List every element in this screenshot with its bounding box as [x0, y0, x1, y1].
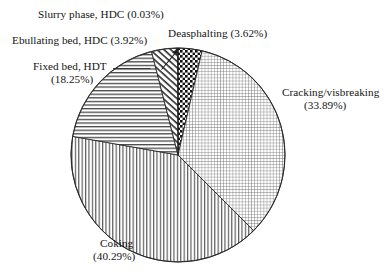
- slice-label-value: (40.29%): [93, 250, 135, 263]
- slice-label-value: (33.89%): [304, 99, 379, 112]
- slice-label-value: (18.25%): [51, 73, 107, 86]
- slice-label-deasphalting: Deasphalting (3.62%): [168, 27, 267, 40]
- slice-label-coking: Coking (40.29%): [93, 237, 135, 264]
- slice-label-text: Ebullating bed, HDC (3.92%): [12, 34, 147, 46]
- slice-label-slurry-phase-hdc: Slurry phase, HDC (0.03%): [38, 8, 164, 21]
- slice-label-cracking-visbreaking: Cracking/visbreaking (33.89%): [282, 86, 379, 113]
- slice-label-text: Fixed bed, HDT: [33, 60, 107, 72]
- slice-label-fixed-bed-hdt: Fixed bed, HDT (18.25%): [33, 60, 107, 87]
- slice-label-text: Coking: [100, 237, 133, 249]
- slice-label-text: Deasphalting (3.62%): [168, 27, 267, 39]
- slice-label-text: Cracking/visbreaking: [282, 86, 379, 98]
- slice-label-text: Slurry phase, HDC (0.03%): [38, 8, 164, 20]
- pie-chart-figure: Slurry phase, HDC (0.03%) Ebullating bed…: [0, 0, 389, 275]
- slice-label-ebullating-bed-hdc: Ebullating bed, HDC (3.92%): [12, 34, 147, 47]
